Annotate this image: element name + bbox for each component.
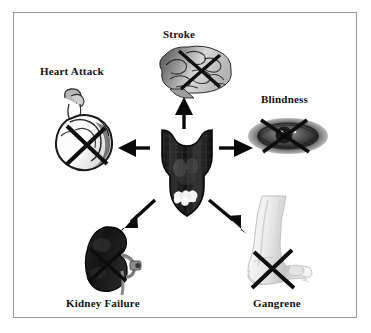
brain-icon	[146, 43, 238, 101]
eye-icon	[247, 114, 329, 158]
node-label-kidney-failure: Kidney Failure	[66, 297, 140, 309]
arrow-to-blindness	[219, 138, 253, 158]
node-label-stroke: Stroke	[163, 28, 195, 40]
diabetes-complications-figure: Stroke	[0, 0, 371, 333]
node-label-heart-attack: Heart Attack	[40, 65, 104, 77]
heart-icon	[47, 86, 125, 176]
arrow-to-heart-attack	[118, 138, 150, 158]
arrow-to-kidney-failure	[115, 198, 157, 236]
arrow-to-stroke	[173, 97, 195, 129]
node-label-blindness: Blindness	[261, 93, 308, 105]
arrow-to-gangrene	[207, 198, 251, 238]
node-label-gangrene: Gangrene	[253, 297, 301, 309]
